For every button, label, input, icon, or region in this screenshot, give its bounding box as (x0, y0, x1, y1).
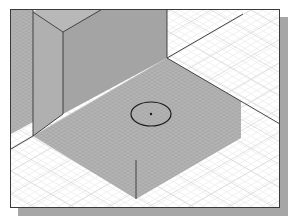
isometric-scene (11, 10, 280, 208)
left-grid-strip (11, 10, 33, 134)
circle-center-point (150, 113, 152, 115)
3d-viewport[interactable]: Isometric 3D viewport (10, 9, 280, 208)
